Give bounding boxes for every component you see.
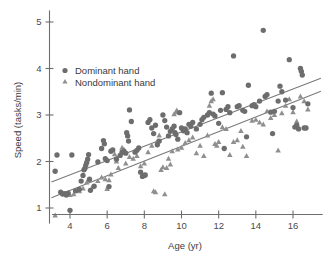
legend-label-dominant-hand: Dominant hand (75, 65, 139, 76)
data-point-dominant-hand (80, 173, 85, 178)
x-tick-label: 4 (67, 220, 72, 231)
data-point-dominant-hand (261, 28, 266, 33)
data-point-nondominant-hand (145, 149, 151, 154)
data-point-dominant-hand (153, 123, 158, 128)
data-point-nondominant-hand (142, 160, 148, 165)
data-point-dominant-hand (231, 53, 236, 58)
x-axis-title: Age (yr) (168, 240, 202, 251)
data-point-nondominant-hand (275, 147, 281, 152)
data-point-dominant-hand (227, 110, 232, 115)
data-point-dominant-hand (102, 141, 107, 146)
x-tick-label: 8 (142, 220, 147, 231)
data-point-nondominant-hand (168, 161, 174, 166)
y-tick-label: 4 (36, 63, 41, 74)
data-point-dominant-hand (270, 131, 275, 136)
data-point-dominant-hand (290, 105, 295, 110)
data-point-dominant-hand (125, 133, 130, 138)
data-point-dominant-hand (300, 72, 305, 77)
data-point-dominant-hand (110, 147, 115, 152)
data-point-dominant-hand (164, 124, 169, 129)
data-point-dominant-hand (157, 138, 162, 143)
data-point-dominant-hand (222, 146, 227, 151)
data-point-dominant-hand (87, 177, 92, 182)
data-point-dominant-hand (171, 124, 176, 129)
data-point-dominant-hand (95, 159, 100, 164)
data-point-dominant-hand (272, 109, 277, 114)
legend-marker-dominant-hand (62, 68, 67, 73)
y-tick-label: 3 (36, 109, 41, 120)
y-axis-title: Speed (tasks/min) (12, 82, 23, 159)
data-point-dominant-hand (52, 169, 57, 174)
data-point-dominant-hand (209, 90, 214, 95)
data-point-dominant-hand (220, 90, 225, 95)
data-point-dominant-hand (244, 134, 249, 139)
data-point-nondominant-hand (123, 160, 129, 165)
data-point-nondominant-hand (108, 172, 114, 177)
x-tick-label: 12 (213, 220, 224, 231)
data-point-dominant-hand (275, 98, 280, 103)
data-point-dominant-hand (246, 83, 251, 88)
data-point-dominant-hand (264, 92, 269, 97)
data-point-dominant-hand (190, 120, 195, 125)
data-point-dominant-hand (143, 172, 148, 177)
data-point-dominant-hand (86, 152, 91, 157)
data-point-nondominant-hand (116, 165, 122, 170)
data-point-dominant-hand (242, 109, 247, 114)
data-point-dominant-hand (197, 122, 202, 127)
data-point-nondominant-hand (197, 143, 203, 148)
data-point-dominant-hand (69, 152, 74, 157)
data-point-nondominant-hand (240, 144, 246, 149)
data-point-dominant-hand (177, 110, 182, 115)
data-point-dominant-hand (105, 158, 110, 163)
data-point-dominant-hand (175, 137, 180, 142)
data-point-dominant-hand (88, 188, 93, 193)
data-point-nondominant-hand (194, 150, 200, 155)
data-point-nondominant-hand (305, 107, 311, 112)
data-point-dominant-hand (99, 146, 104, 151)
x-tick-label: 6 (105, 220, 110, 231)
data-point-nondominant-hand (216, 139, 222, 144)
data-point-dominant-hand (225, 104, 230, 109)
data-point-dominant-hand (166, 133, 171, 138)
data-point-nondominant-hand (244, 153, 250, 158)
data-point-dominant-hand (257, 98, 262, 103)
data-point-dominant-hand (194, 126, 199, 131)
y-tick-label: 1 (36, 202, 41, 213)
data-point-dominant-hand (253, 104, 258, 109)
data-point-dominant-hand (305, 101, 310, 106)
data-point-dominant-hand (85, 157, 90, 162)
y-tick-label: 2 (36, 156, 41, 167)
data-point-dominant-hand (218, 108, 223, 113)
data-point-dominant-hand (77, 187, 82, 192)
data-point-nondominant-hand (279, 110, 285, 115)
data-point-nondominant-hand (298, 94, 304, 99)
data-point-nondominant-hand (201, 153, 207, 158)
x-tick-label: 14 (251, 220, 262, 231)
chart-legend: Dominant hand Nondominant hand (62, 65, 155, 89)
data-point-dominant-hand (151, 131, 156, 136)
data-point-dominant-hand (123, 150, 128, 155)
data-point-dominant-hand (106, 184, 111, 189)
data-point-dominant-hand (92, 183, 97, 188)
data-point-dominant-hand (216, 121, 221, 126)
data-point-nondominant-hand (238, 128, 244, 133)
data-point-nondominant-hand (166, 156, 172, 161)
legend-marker-nondominant-hand (62, 79, 67, 83)
data-point-dominant-hand (212, 113, 217, 118)
data-point-dominant-hand (129, 119, 134, 124)
data-point-nondominant-hand (234, 137, 240, 142)
data-point-dominant-hand (277, 84, 282, 89)
data-point-dominant-hand (303, 125, 308, 130)
series-dominant-hand-points (52, 28, 310, 213)
data-point-nondominant-hand (207, 103, 213, 108)
data-point-nondominant-hand (162, 191, 168, 196)
data-point-dominant-hand (127, 107, 132, 112)
data-point-dominant-hand (173, 132, 178, 137)
data-point-dominant-hand (236, 103, 241, 108)
scatter-plot-figure: 1234546810121416 Speed (tasks/min) Age (… (0, 0, 331, 268)
x-tick-label: 16 (288, 220, 299, 231)
data-point-dominant-hand (147, 117, 152, 122)
data-point-dominant-hand (54, 152, 59, 157)
data-point-dominant-hand (279, 89, 284, 94)
data-point-nondominant-hand (283, 103, 289, 108)
